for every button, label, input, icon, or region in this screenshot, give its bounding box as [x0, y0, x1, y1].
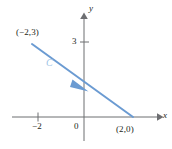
coordinate-plot: [0, 0, 172, 149]
y-tick-label-3: 3: [72, 37, 77, 46]
y-axis-label: y: [89, 4, 93, 13]
origin-label: 0: [74, 122, 79, 131]
point-label-end: (2,0): [116, 125, 134, 134]
x-tick-label-minus-2: −2: [32, 122, 42, 131]
point-label-start: (−2,3): [16, 28, 39, 37]
line-integral-figure: y x 3 −2 0 (−2,3) (2,0) C: [0, 0, 172, 149]
curve-label-c: C: [46, 58, 53, 68]
curve-c-direction-arrowhead: [70, 80, 89, 92]
y-axis-arrowhead: [80, 13, 88, 20]
curve-c-segment: [32, 44, 133, 117]
x-axis-label: x: [163, 111, 167, 120]
